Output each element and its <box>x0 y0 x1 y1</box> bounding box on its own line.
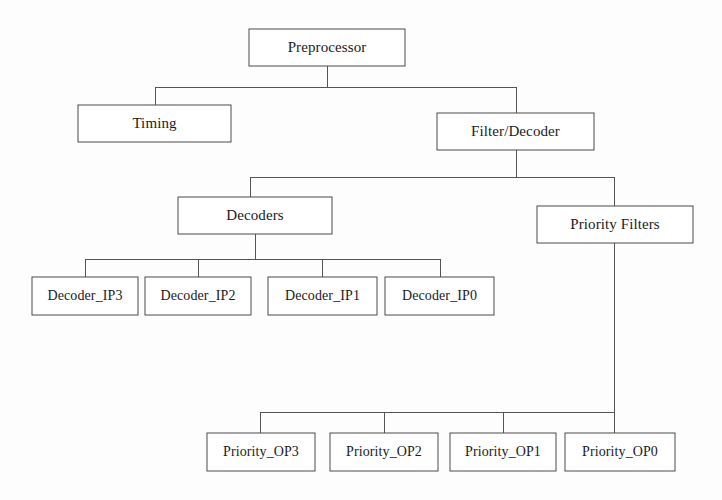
node-priority-op0[interactable]: Priority_OP0 <box>565 433 675 471</box>
node-priority-op2-label: Priority_OP2 <box>346 444 422 459</box>
node-filter-decoder-label: Filter/Decoder <box>471 123 560 139</box>
node-priority-op2[interactable]: Priority_OP2 <box>330 433 438 471</box>
node-filter-decoder[interactable]: Filter/Decoder <box>437 113 594 150</box>
node-priority-op1[interactable]: Priority_OP1 <box>450 433 556 471</box>
node-priority-op3-label: Priority_OP3 <box>223 444 299 459</box>
node-preprocessor[interactable]: Preprocessor <box>249 29 405 66</box>
edge-priority-filters-bus <box>260 243 614 433</box>
node-timing-label: Timing <box>132 115 177 131</box>
node-preprocessor-label: Preprocessor <box>288 39 367 55</box>
hierarchy-diagram: Preprocessor Timing Filter/Decoder Decod… <box>0 0 722 500</box>
node-decoder-ip3[interactable]: Decoder_IP3 <box>32 277 138 315</box>
node-timing[interactable]: Timing <box>78 105 231 142</box>
node-decoder-ip0[interactable]: Decoder_IP0 <box>385 277 494 315</box>
node-priority-filters-label: Priority Filters <box>570 216 660 232</box>
node-decoder-ip1-label: Decoder_IP1 <box>285 288 360 303</box>
node-priority-op1-label: Priority_OP1 <box>465 444 541 459</box>
node-decoders[interactable]: Decoders <box>178 197 332 234</box>
node-decoder-ip2[interactable]: Decoder_IP2 <box>145 277 251 315</box>
node-decoders-label: Decoders <box>226 207 284 223</box>
node-priority-op3[interactable]: Priority_OP3 <box>207 433 315 471</box>
diagram-canvas: Preprocessor Timing Filter/Decoder Decod… <box>0 0 722 500</box>
edge-decoders-bus <box>85 233 440 277</box>
node-priority-op0-label: Priority_OP0 <box>582 444 658 459</box>
node-decoder-ip1[interactable]: Decoder_IP1 <box>268 277 377 315</box>
node-decoder-ip2-label: Decoder_IP2 <box>161 288 236 303</box>
node-decoder-ip0-label: Decoder_IP0 <box>402 288 477 303</box>
node-decoder-ip3-label: Decoder_IP3 <box>48 288 123 303</box>
node-priority-filters[interactable]: Priority Filters <box>537 206 693 243</box>
